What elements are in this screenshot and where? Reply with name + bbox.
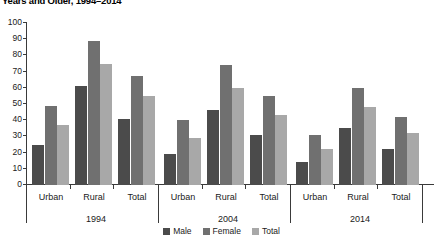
plot-area: 1009080706050403020100 UrbanRuralTotalUr… [26,22,434,185]
bar-total-rural-2004 [232,88,244,185]
y-axis-tick-mark [23,168,26,169]
bar-male-total-2014 [382,149,394,185]
y-axis-tick-label: 10 [1,164,22,172]
y-axis-tick-mark [23,87,26,88]
bar-total-total-2014 [407,133,419,185]
x-axis-year-label-2014: 2014 [320,214,400,224]
y-axis-tick-label: 40 [1,115,22,123]
y-axis-tick-label: 20 [1,148,22,156]
bar-total-rural-1994 [100,64,112,186]
x-axis-tick-mark [334,185,335,189]
y-axis-tick-mark [23,38,26,39]
bar-total-rural-2014 [364,107,376,185]
y-axis-tick-label: 70 [1,67,22,75]
legend-swatch-icon [203,228,210,235]
page-title: Years and Older, 1994–2014 [2,0,121,6]
bar-female-total-1994 [131,76,143,185]
y-axis-tick-mark [23,135,26,136]
bar-total-total-1994 [143,96,155,185]
legend-swatch-icon [252,228,259,235]
bar-female-total-2004 [263,96,275,185]
bar-female-rural-2004 [220,65,232,185]
bar-total-total-2004 [275,115,287,185]
y-axis-tick-label: 100 [1,18,22,26]
y-axis-tick-label: 90 [1,34,22,42]
chart-legend: MaleFemaleTotal [0,226,443,236]
legend-item-male: Male [163,226,191,236]
y-axis-tick-mark [23,54,26,55]
year-separator [290,185,291,223]
x-axis-tick-mark [70,185,71,189]
x-axis-tick-mark [113,185,114,189]
y-axis-tick-label: 30 [1,131,22,139]
y-axis-line [26,22,27,185]
x-axis-year-label-1994: 1994 [56,214,136,224]
x-axis-tick-mark [245,185,246,189]
bar-female-urban-1994 [45,106,57,185]
x-axis-tick-mark [202,185,203,189]
bar-female-urban-2004 [177,120,189,185]
bar-male-total-2004 [250,135,262,185]
y-axis-tick-mark [23,22,26,23]
bar-female-urban-2014 [309,135,321,185]
legend-item-female: Female [203,226,241,236]
y-axis-tick-mark [23,119,26,120]
bar-total-urban-2014 [321,149,333,185]
y-axis-tick-mark [23,71,26,72]
bar-male-rural-1994 [75,86,87,185]
y-axis-tick-label: 60 [1,83,22,91]
bar-total-urban-1994 [57,125,69,185]
year-separator [422,185,423,223]
bar-female-total-2014 [395,117,407,185]
bar-female-rural-2014 [352,88,364,185]
y-axis-tick-label: 0 [1,180,22,188]
y-axis-tick-label: 80 [1,50,22,58]
legend-label: Male [173,226,191,236]
legend-item-total: Total [252,226,280,236]
bar-male-rural-2004 [207,110,219,185]
bar-female-rural-1994 [88,41,100,185]
legend-label: Female [213,226,241,236]
y-axis-tick-mark [23,152,26,153]
legend-label: Total [262,226,280,236]
y-axis-tick-label: 50 [1,99,22,107]
bar-male-urban-2004 [164,154,176,185]
bar-male-total-1994 [118,119,130,185]
x-axis-tick-mark [377,185,378,189]
y-axis-tick-mark [23,103,26,104]
year-separator [26,185,27,223]
bar-male-urban-2014 [296,162,308,185]
bar-male-rural-2014 [339,128,351,185]
x-axis-year-label-2004: 2004 [188,214,268,224]
bar-total-urban-2004 [189,138,201,185]
bar-male-urban-1994 [32,145,44,186]
legend-swatch-icon [163,228,170,235]
year-separator [158,185,159,223]
